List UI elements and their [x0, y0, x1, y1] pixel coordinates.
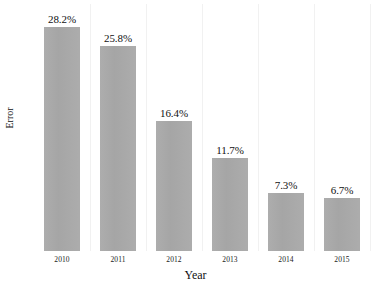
- gridline-vertical: [202, 4, 203, 251]
- bar-group-2010[interactable]: 28.2%: [44, 4, 80, 251]
- gridline-vertical: [90, 4, 91, 251]
- y-axis-title: Error: [4, 94, 16, 142]
- plot-area: 28.2% 25.8% 16.4% 11.7% 7.3% 6.7%: [28, 4, 388, 251]
- bar-group-2013[interactable]: 11.7%: [212, 4, 248, 251]
- bar-group-2014[interactable]: 7.3%: [268, 4, 304, 251]
- bar-value-label-2010: 28.2%: [48, 13, 76, 25]
- bar-group-2015[interactable]: 6.7%: [324, 4, 360, 251]
- x-tick-2012: 2012: [166, 255, 181, 265]
- bar-2013[interactable]: [212, 158, 248, 251]
- bar-group-2011[interactable]: 25.8%: [100, 4, 136, 251]
- bar-2011[interactable]: [100, 46, 136, 251]
- bar-2012[interactable]: [156, 121, 192, 251]
- bar-2010[interactable]: [44, 27, 80, 251]
- gridline-vertical: [314, 4, 315, 251]
- x-axis-title: Year: [0, 268, 391, 282]
- gridline-vertical: [146, 4, 147, 251]
- x-tick-2015: 2015: [334, 255, 349, 265]
- gridline-vertical: [258, 4, 259, 251]
- bar-value-label-2012: 16.4%: [160, 107, 188, 119]
- x-tick-2011: 2011: [110, 255, 125, 265]
- bar-2015[interactable]: [324, 198, 360, 251]
- bar-group-2012[interactable]: 16.4%: [156, 4, 192, 251]
- x-tick-2014: 2014: [278, 255, 293, 265]
- bar-value-label-2011: 25.8%: [104, 32, 132, 44]
- bar-value-label-2015: 6.7%: [331, 184, 354, 196]
- gridline-vertical: [370, 4, 371, 251]
- bar-value-label-2014: 7.3%: [275, 179, 298, 191]
- bar-value-label-2013: 11.7%: [216, 144, 244, 156]
- bar-2014[interactable]: [268, 193, 304, 251]
- x-tick-2013: 2013: [222, 255, 237, 265]
- bar-chart-figure: 28.2% 25.8% 16.4% 11.7% 7.3% 6.7% 2010 2…: [0, 0, 391, 295]
- x-tick-2010: 2010: [54, 255, 69, 265]
- x-axis-tick-labels: 2010 2011 2012 2013 2014 2015: [28, 255, 388, 269]
